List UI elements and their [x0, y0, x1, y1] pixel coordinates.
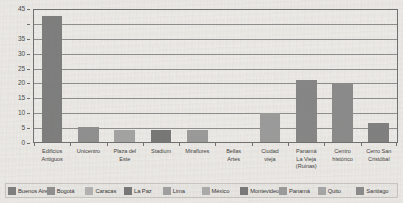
legend-color-swatch: [240, 187, 248, 195]
y-axis-tick-mark: [27, 83, 30, 84]
x-axis-category: Unicentro: [70, 144, 106, 176]
legend-color-swatch: [8, 187, 16, 195]
legend-color-swatch: [124, 187, 132, 195]
y-axis-tick-label: 10: [18, 110, 25, 117]
y-axis-tick-mark: [27, 39, 30, 40]
legend-item[interactable]: La Paz: [124, 187, 163, 195]
bar-slot: [324, 10, 360, 142]
x-axis-tick-label: Plaza del Este: [107, 144, 143, 163]
legend-item[interactable]: Santiago: [356, 187, 395, 195]
bar: [260, 113, 281, 142]
x-axis-tick-label: Bellas Artes: [215, 144, 251, 163]
x-axis-tick-label: Cerro San Cristóbal: [361, 144, 397, 163]
bar-slot: [143, 10, 179, 142]
legend-item[interactable]: Bogotá: [47, 187, 86, 195]
x-axis-tick-label: Unicentro: [70, 144, 106, 156]
y-axis-tick-mark: [27, 54, 30, 55]
legend-item-label: Montevideo: [250, 188, 279, 194]
legend-item-label: La Paz: [134, 188, 151, 194]
y-axis-tick-label: 5: [21, 125, 25, 132]
legend-color-swatch: [318, 187, 326, 195]
x-axis-tick-label: Stadium: [143, 144, 179, 156]
legend-item-label: Panamá: [289, 188, 310, 194]
y-axis: 4535302520151050: [0, 9, 30, 143]
legend-item-label: Lima: [173, 188, 185, 194]
x-axis-tick-label: Centro histórico: [324, 144, 360, 163]
bar-slot: [107, 10, 143, 142]
x-axis: Edificios AntiguosUnicentroPlaza del Est…: [34, 144, 397, 176]
legend-item[interactable]: Caracas: [85, 187, 124, 195]
legend-item[interactable]: Panamá: [279, 187, 318, 195]
x-axis-tick-mark: [288, 143, 289, 146]
y-axis-tick-label: 25: [18, 65, 25, 72]
x-axis-category: Cerro San Cristóbal: [361, 144, 397, 176]
x-axis-tick-label: Edificios Antiguos: [34, 144, 70, 163]
legend-color-swatch: [356, 187, 364, 195]
bar-slot: [361, 10, 397, 142]
legend-item-label: México: [212, 188, 230, 194]
legend-color-swatch: [85, 187, 93, 195]
x-axis-category: Centro histórico: [324, 144, 360, 176]
legend-color-swatch: [202, 187, 210, 195]
bar-slot: [34, 10, 70, 142]
bar: [42, 16, 63, 142]
legend-color-swatch: [47, 187, 55, 195]
x-axis-tick-mark: [34, 143, 35, 146]
x-axis-category: Panamá La Vieja (Ruinas): [288, 144, 324, 176]
y-axis-tick-label: 20: [18, 80, 25, 87]
y-axis-tick-label: 15: [18, 95, 25, 102]
legend-item[interactable]: Montevideo: [240, 187, 279, 195]
bar-slot: [288, 10, 324, 142]
bar-chart-figure: 4535302520151050 Edificios AntiguosUnice…: [0, 0, 403, 203]
bar: [187, 130, 208, 142]
y-axis-tick-label: 30: [18, 50, 25, 57]
x-axis-tick-mark: [143, 143, 144, 146]
bar: [368, 123, 389, 142]
legend-item-label: Bogotá: [57, 188, 75, 194]
x-axis-tick-mark: [215, 143, 216, 146]
x-axis-category: Bellas Artes: [215, 144, 251, 176]
legend-item[interactable]: Lima: [163, 187, 202, 195]
x-axis-tick-mark: [361, 143, 362, 146]
x-axis-tick-mark: [252, 143, 253, 146]
legend-color-swatch: [279, 187, 287, 195]
bar-slot: [70, 10, 106, 142]
x-axis-category: Miraflores: [179, 144, 215, 176]
bar-slot: [252, 10, 288, 142]
x-axis-tick-mark: [179, 143, 180, 146]
x-axis-category: Ciudad vieja: [252, 144, 288, 176]
y-axis-tick-label: 35: [18, 36, 25, 43]
x-axis-tick-label: Panamá La Vieja (Ruinas): [288, 144, 324, 171]
x-axis-tick-label: Miraflores: [179, 144, 215, 156]
legend-item[interactable]: Quito: [318, 187, 357, 195]
x-axis-tick-mark: [107, 143, 108, 146]
bar: [78, 127, 99, 142]
y-axis-tick-mark: [27, 24, 30, 25]
x-axis-category: Edificios Antiguos: [34, 144, 70, 176]
x-axis-tick-label: Ciudad vieja: [252, 144, 288, 163]
legend-item-label: Santiago: [366, 188, 388, 194]
y-axis-tick-label: 45: [18, 6, 25, 13]
x-axis-tick-mark: [70, 143, 71, 146]
bar-slot: [215, 10, 251, 142]
bar: [296, 80, 317, 142]
y-axis-tick-label: 0: [21, 140, 25, 147]
bars-container: [34, 10, 397, 142]
y-axis-tick-mark: [27, 143, 30, 144]
legend-item-label: Caracas: [95, 188, 116, 194]
y-axis-tick-mark: [27, 9, 30, 10]
x-axis-category: Plaza del Este: [107, 144, 143, 176]
bar: [332, 83, 353, 142]
bar: [114, 130, 135, 142]
y-axis-tick-mark: [27, 113, 30, 114]
legend-item[interactable]: Buenos Aires: [8, 187, 47, 195]
y-axis-tick-mark: [27, 69, 30, 70]
chart-legend: Buenos AiresBogotáCaracasLa PazLimaMéxic…: [5, 183, 398, 198]
legend-color-swatch: [163, 187, 171, 195]
bar-slot: [179, 10, 215, 142]
y-axis-tick-mark: [27, 128, 30, 129]
y-axis-tick-mark: [27, 98, 30, 99]
bar: [151, 130, 172, 142]
legend-item[interactable]: México: [202, 187, 241, 195]
x-axis-tick-mark: [324, 143, 325, 146]
